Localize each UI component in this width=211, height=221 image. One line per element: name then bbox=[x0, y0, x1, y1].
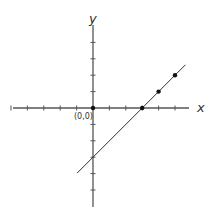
y-axis-label: y bbox=[88, 11, 97, 26]
data-point bbox=[156, 89, 160, 93]
origin-point bbox=[91, 106, 95, 110]
data-point bbox=[173, 73, 177, 77]
origin-label: (0,0) bbox=[74, 112, 93, 121]
data-point bbox=[140, 106, 144, 110]
x-axis-label: x bbox=[196, 100, 205, 115]
axes bbox=[13, 25, 189, 207]
coordinate-plane: x y (0,0) bbox=[0, 0, 211, 221]
